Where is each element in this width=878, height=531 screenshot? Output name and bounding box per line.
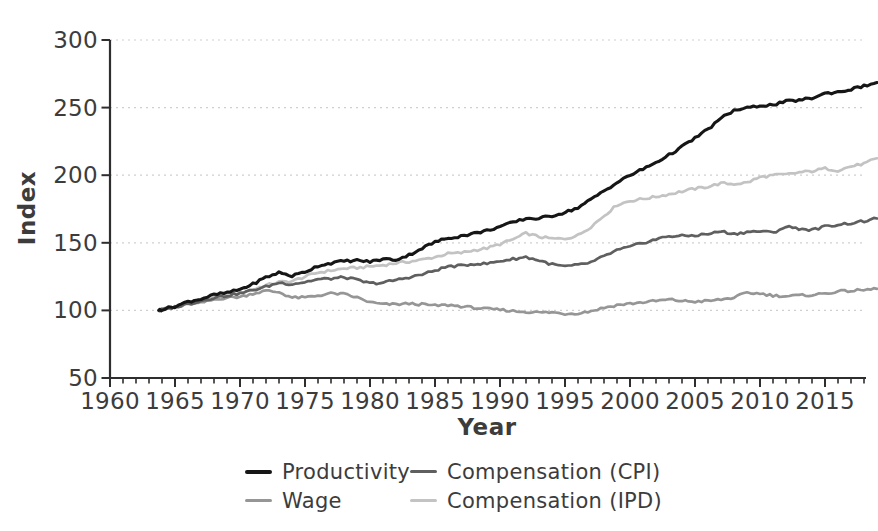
legend-label: Compensation (CPI) bbox=[447, 460, 661, 484]
x-tick-label-1990: 1990 bbox=[463, 388, 537, 414]
y-tick-label-250: 250 bbox=[38, 95, 98, 121]
series-line-compensation-ipd bbox=[159, 158, 877, 310]
legend-swatch-icon bbox=[410, 499, 437, 502]
legend-item-wage: Wage bbox=[245, 487, 342, 514]
series-line-compensation-cpi bbox=[159, 218, 877, 311]
x-axis-title: Year bbox=[457, 414, 516, 440]
legend-label: Productivity bbox=[282, 460, 410, 484]
legend-swatch-icon bbox=[245, 499, 272, 502]
x-tick-label-1960: 1960 bbox=[73, 388, 147, 414]
y-tick-label-200: 200 bbox=[38, 162, 98, 188]
legend-item-productivity: Productivity bbox=[245, 458, 410, 485]
x-tick-label-1980: 1980 bbox=[333, 388, 407, 414]
legend-label: Wage bbox=[282, 489, 342, 513]
plot-area bbox=[0, 0, 878, 531]
x-tick-label-1975: 1975 bbox=[268, 388, 342, 414]
x-tick-label-2015: 2015 bbox=[788, 388, 862, 414]
x-tick-label-2000: 2000 bbox=[593, 388, 667, 414]
x-tick-label-1970: 1970 bbox=[203, 388, 277, 414]
x-tick-label-2005: 2005 bbox=[658, 388, 732, 414]
legend-item-compensation-ipd: Compensation (IPD) bbox=[410, 487, 662, 514]
x-tick-label-1985: 1985 bbox=[398, 388, 472, 414]
legend-swatch-icon bbox=[245, 470, 272, 474]
y-axis-title: Index bbox=[14, 171, 40, 245]
legend-swatch-icon bbox=[410, 470, 437, 473]
y-tick-label-100: 100 bbox=[38, 297, 98, 323]
x-tick-label-1965: 1965 bbox=[138, 388, 212, 414]
y-tick-label-300: 300 bbox=[38, 27, 98, 53]
series-line-productivity bbox=[159, 83, 877, 311]
x-tick-label-1995: 1995 bbox=[528, 388, 602, 414]
x-tick-label-2010: 2010 bbox=[723, 388, 797, 414]
y-tick-label-150: 150 bbox=[38, 230, 98, 256]
legend-item-compensation-cpi: Compensation (CPI) bbox=[410, 458, 661, 485]
line-chart-figure: Index Year 50100150200250300 19601965197… bbox=[0, 0, 878, 531]
legend-label: Compensation (IPD) bbox=[447, 489, 662, 513]
